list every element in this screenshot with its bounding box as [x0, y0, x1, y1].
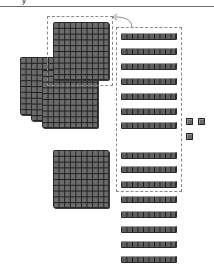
ten-rod — [121, 152, 176, 159]
ten-rod — [121, 181, 176, 188]
header-cropped-text: y — [22, 0, 26, 5]
ten-rod — [121, 78, 176, 85]
ten-rod — [121, 211, 176, 218]
ten-rod — [121, 122, 176, 129]
ten-rod — [121, 241, 176, 248]
ten-rod — [121, 48, 176, 55]
ten-rod — [121, 196, 176, 203]
hundred-flat-bottom — [53, 150, 109, 208]
ten-rod — [121, 226, 176, 233]
one-cube — [186, 118, 193, 125]
one-cube — [186, 133, 193, 140]
ten-rod — [121, 93, 176, 100]
ten-rod — [121, 33, 176, 40]
ten-rod — [121, 256, 176, 263]
header-rule — [0, 6, 214, 7]
hundred-flat-exchanged — [53, 22, 109, 80]
one-cube — [198, 118, 205, 125]
ten-rod — [121, 108, 176, 115]
ten-rod — [121, 63, 176, 70]
ten-rod — [121, 166, 176, 173]
